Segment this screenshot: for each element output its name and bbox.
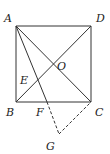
- label-E: E: [19, 74, 28, 87]
- geometry-diagram: A D O E B F C G: [0, 0, 110, 154]
- label-C: C: [95, 106, 104, 119]
- label-B: B: [5, 106, 14, 119]
- segment-AF: [16, 26, 47, 102]
- label-F: F: [35, 106, 44, 119]
- label-D: D: [95, 12, 105, 25]
- label-G: G: [46, 140, 55, 153]
- dashed-segment-FG: [47, 102, 59, 134]
- dashed-segment-GC: [59, 102, 91, 134]
- label-A: A: [3, 12, 12, 25]
- label-O: O: [57, 60, 66, 73]
